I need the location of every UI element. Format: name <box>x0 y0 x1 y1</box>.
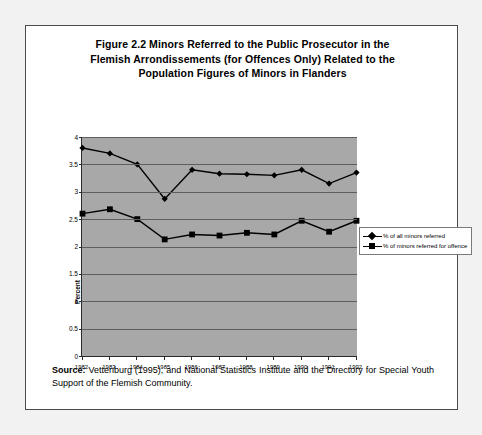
x-tick-mark <box>356 357 357 360</box>
data-point <box>299 167 305 173</box>
data-point <box>107 206 113 212</box>
gridline <box>82 219 357 220</box>
data-point <box>107 150 113 156</box>
data-point <box>189 232 195 238</box>
chart-area: Percent 00.511.522.533.54 19821983198419… <box>26 98 459 353</box>
x-tick-mark <box>82 357 83 360</box>
square-marker-icon <box>363 242 382 251</box>
data-point <box>216 171 222 177</box>
gridline <box>82 301 357 302</box>
gridline <box>82 137 357 138</box>
diamond-marker-icon <box>363 232 382 241</box>
figure-title-line-2: Flemish Arrondissements (for Offences On… <box>44 52 441 67</box>
gridline <box>82 192 357 193</box>
source-text: Vettenburg (1995), and National Statisti… <box>52 365 434 388</box>
y-tick-label: 0 <box>56 353 78 360</box>
data-point <box>271 172 277 178</box>
legend-item-offence: % of minors referred for offence <box>363 241 467 251</box>
x-tick-mark <box>219 357 220 360</box>
figure-title-line-3: Population Figures of Minors in Flanders <box>44 66 441 81</box>
legend-item-all-minors: % of all minors referred <box>363 231 467 241</box>
chart-legend: % of all minors referred % of minors ref… <box>359 227 472 255</box>
x-tick-mark <box>301 357 302 360</box>
data-point <box>244 230 250 236</box>
y-tick-label: 3.5 <box>56 161 78 168</box>
source-label: Source: <box>52 365 86 375</box>
x-tick-mark <box>273 357 274 360</box>
y-tick-label: 2 <box>56 243 78 250</box>
x-tick-mark <box>191 357 192 360</box>
data-point <box>244 171 250 177</box>
y-tick-label: 1.5 <box>56 270 78 277</box>
figure-frame: Figure 2.2 Minors Referred to the Public… <box>25 25 458 410</box>
gridline <box>82 329 357 330</box>
gridline <box>82 164 357 165</box>
x-tick-mark <box>164 357 165 360</box>
data-point <box>217 233 223 239</box>
data-point <box>271 232 277 238</box>
x-tick-mark <box>328 357 329 360</box>
y-tick-label: 2.5 <box>56 216 78 223</box>
y-axis-ticks: 00.511.522.533.54 <box>52 137 78 356</box>
data-point <box>79 145 85 151</box>
legend-label-offence: % of minors referred for offence <box>382 243 467 249</box>
y-tick-label: 3 <box>56 188 78 195</box>
data-point <box>326 229 332 235</box>
y-tick-label: 1 <box>56 298 78 305</box>
y-tick-label: 4 <box>56 134 78 141</box>
data-point <box>80 211 86 217</box>
data-point <box>162 236 168 242</box>
legend-label-all-minors: % of all minors referred <box>382 233 445 239</box>
x-tick-mark <box>136 357 137 360</box>
source-note: Source: Vettenburg (1995), and National … <box>52 364 434 390</box>
figure-title: Figure 2.2 Minors Referred to the Public… <box>44 37 441 81</box>
plot-area <box>81 137 357 357</box>
gridline <box>82 247 357 248</box>
data-point <box>326 180 332 186</box>
x-tick-mark <box>109 357 110 360</box>
data-point <box>353 169 359 175</box>
gridline <box>82 274 357 275</box>
figure-title-line-1: Figure 2.2 Minors Referred to the Public… <box>44 37 441 52</box>
y-tick-label: 0.5 <box>56 325 78 332</box>
x-tick-mark <box>246 357 247 360</box>
